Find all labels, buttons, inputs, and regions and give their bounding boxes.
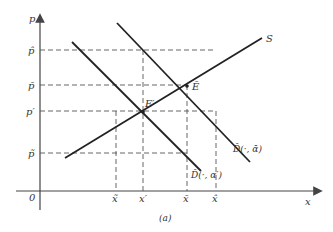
supply-curve — [65, 38, 262, 158]
x-tick-x-bar: x̄ — [183, 193, 189, 204]
y-tick-p-bar: p̄ — [28, 80, 35, 91]
caption: (a) — [159, 213, 172, 223]
y-axis-label: p — [29, 13, 36, 24]
y-tick-p-hat: p̂ — [28, 45, 35, 56]
point-e-prime-label: E′ — [144, 98, 155, 109]
origin-label: 0 — [29, 192, 36, 203]
y-tick-p-prime: p′ — [26, 106, 35, 117]
demand-curve-low — [72, 42, 201, 171]
x-tick-x-prime: x′ — [139, 193, 148, 204]
y-tick-p-tilde: p̃ — [28, 148, 35, 159]
demand-high-label: D̂(·, ᾱ) — [232, 143, 262, 154]
demand-low-label: D̂(·, α′) — [190, 169, 222, 180]
x-tick-x-hat: x̂ — [212, 193, 218, 204]
point-e-prime — [141, 110, 145, 114]
x-axis-label: x — [305, 196, 311, 207]
point-e-bar — [185, 84, 189, 88]
demand-curve-high — [117, 23, 250, 162]
supply-label: S — [266, 33, 273, 44]
supply-demand-diagram: p x 0 p̂ p̄ p′ p̃ x̃ x′ x̄ x̂ S D̂(·, ᾱ)… — [0, 0, 333, 232]
x-tick-x-tilde: x̃ — [112, 193, 118, 204]
point-e-bar-label: Ē — [191, 81, 200, 92]
